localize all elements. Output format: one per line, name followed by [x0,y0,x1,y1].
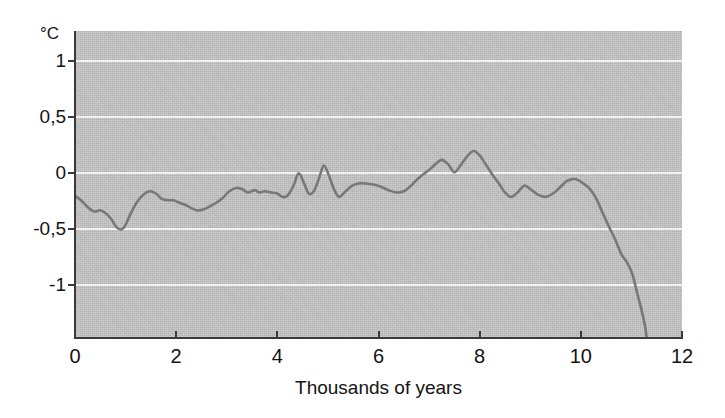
x-axis-tick-mark [580,331,582,339]
y-axis-tick-mark [68,60,76,62]
x-axis-tick-mark [378,331,380,339]
temperature-anomaly-line [75,151,647,337]
y-axis-tick-mark [68,284,76,286]
y-axis-tick-label: -1 [2,275,66,294]
x-axis-title: Thousands of years [75,378,682,397]
x-axis-tick-label: 10 [551,346,611,366]
y-axis-tick-label: -0,5 [2,219,66,238]
y-axis-line [74,31,76,339]
y-axis-tick-label: 0 [2,163,66,182]
x-axis-tick-mark [276,331,278,339]
y-axis-tick-mark [68,172,76,174]
x-axis-tick-label: 0 [45,346,105,366]
x-axis-tick-label: 4 [247,346,307,366]
x-axis-tick-mark [175,331,177,339]
x-axis-tick-label: 12 [652,346,712,366]
y-axis-tick-mark [68,228,76,230]
y-axis-tick-label: 1 [2,51,66,70]
y-axis-tick-label: 0,5 [2,107,66,126]
series-line-chart [75,31,682,337]
x-axis-tick-mark [479,331,481,339]
x-axis-tick-label: 8 [450,346,510,366]
y-axis-unit-label: °C [40,25,59,42]
plot-area [75,31,682,337]
y-axis-tick-mark [68,116,76,118]
chart-figure: 10,50-0,5-1 024681012 °C Thousands of ye… [0,0,725,418]
x-axis-tick-label: 2 [146,346,206,366]
x-axis-tick-mark [74,331,76,339]
x-axis-tick-mark [681,331,683,339]
x-axis-tick-label: 6 [349,346,409,366]
